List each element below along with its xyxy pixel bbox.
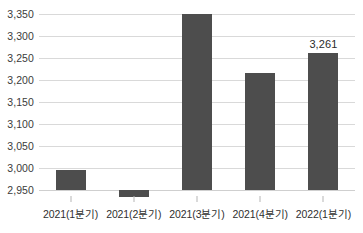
bar-band	[102, 14, 165, 190]
x-axis-tick	[197, 196, 198, 202]
y-axis-tick-label: 2,950	[0, 184, 34, 196]
x-axis-labels: 2021(1분기) 2021(2분기) 2021(3분기) 2021(4분기) …	[39, 206, 355, 228]
y-axis-tick-label: 3,250	[0, 52, 34, 64]
x-axis-category-label: 2021(3분기)	[161, 206, 233, 221]
x-axis-tick	[260, 196, 261, 202]
bar-2022-q1	[308, 53, 338, 190]
x-axis-ticks	[39, 190, 355, 202]
x-axis-category-label: 2022(1분기)	[287, 206, 359, 221]
bar-band	[229, 14, 292, 190]
y-axis-tick-label: 3,200	[0, 74, 34, 86]
bar-band	[39, 14, 102, 190]
y-axis-tick-label: 3,300	[0, 30, 34, 42]
bar-chart: 3,350 3,300 3,250 3,200 3,150 3,100 3,05…	[0, 0, 363, 233]
bar-band	[165, 14, 228, 190]
bar-value-label: 3,261	[309, 38, 337, 50]
x-axis-tick	[133, 196, 134, 202]
x-axis-category-label: 2021(4분기)	[224, 206, 296, 221]
y-axis-tick-label: 3,100	[0, 118, 34, 130]
x-axis-category-label: 2021(1분기)	[35, 206, 107, 221]
y-axis-tick-label: 3,150	[0, 96, 34, 108]
bar-2021-q3	[182, 14, 212, 190]
y-axis-tick-label: 3,350	[0, 8, 34, 20]
y-axis-tick-label: 3,050	[0, 140, 34, 152]
y-axis-tick-label: 3,000	[0, 162, 34, 174]
bar-2021-q1	[56, 170, 86, 190]
y-axis-labels: 3,350 3,300 3,250 3,200 3,150 3,100 3,05…	[0, 14, 34, 190]
x-axis-category-label: 2021(2분기)	[98, 206, 170, 221]
x-axis-tick	[323, 196, 324, 202]
x-axis-tick	[70, 196, 71, 202]
bar-2021-q4	[245, 73, 275, 190]
bar-series	[39, 14, 355, 190]
